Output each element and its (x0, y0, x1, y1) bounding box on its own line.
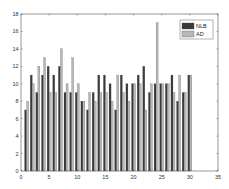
legend-swatch-ad (182, 31, 194, 37)
bar-nlb-13 (92, 93, 94, 172)
y-tick-label: 6 (15, 116, 18, 122)
bar-nlb-14 (98, 75, 100, 171)
bar-nlb-12 (87, 110, 89, 171)
bar-ad-24 (156, 23, 158, 171)
bar-nlb-30 (188, 75, 190, 171)
bar-nlb-23 (148, 93, 150, 172)
bar-nlb-19 (126, 84, 128, 171)
bar-nlb-10 (75, 93, 77, 172)
bar-nlb-25 (160, 84, 162, 171)
bar-ad-16 (111, 101, 113, 171)
y-tick-label: 4 (15, 133, 18, 139)
bar-ad-26 (167, 84, 169, 171)
legend-label-nlb: NLB (196, 23, 207, 29)
bar-nlb-15 (103, 75, 105, 171)
bar-ad-2 (32, 84, 34, 171)
bar-ad-22 (145, 110, 147, 171)
bar-nlb-18 (120, 75, 122, 171)
bar-ad-18 (122, 93, 124, 172)
y-tick-label: 10 (12, 81, 18, 87)
x-tick-label: 10 (74, 174, 80, 180)
bar-ad-6 (55, 93, 57, 172)
bar-nlb-22 (143, 66, 145, 171)
y-tick-label: 18 (12, 11, 18, 17)
legend-swatch-nlb (182, 23, 194, 29)
legend: NLBAD (180, 20, 213, 39)
bar-ad-21 (139, 84, 141, 171)
bar-nlb-20 (132, 84, 134, 171)
bar-nlb-26 (165, 84, 167, 171)
bar-ad-8 (66, 84, 68, 171)
x-tick-label: 35 (215, 174, 221, 180)
bar-ad-7 (60, 49, 62, 171)
bar-ad-28 (179, 75, 181, 171)
bar-nlb-6 (53, 75, 55, 171)
bar-ad-23 (150, 84, 152, 171)
y-tick-label: 12 (12, 63, 18, 69)
bar-nlb-1 (25, 110, 27, 171)
x-tick-label: 15 (102, 174, 108, 180)
bar-ad-27 (173, 93, 175, 172)
y-tick-label: 8 (15, 98, 18, 104)
bar-ad-14 (100, 93, 102, 172)
y-tick-label: 0 (15, 168, 18, 174)
bar-ad-5 (49, 93, 51, 172)
bar-ad-13 (94, 101, 96, 171)
bar-nlb-9 (70, 93, 72, 172)
x-tick-label: 5 (48, 174, 51, 180)
bar-nlb-3 (36, 93, 38, 172)
bar-ad-11 (83, 101, 85, 171)
bar-ad-1 (27, 101, 29, 171)
bar-nlb-8 (64, 93, 66, 172)
bars-group (25, 23, 192, 171)
y-tick-label: 16 (12, 28, 18, 34)
bar-nlb-7 (58, 66, 60, 171)
x-tick-label: 25 (159, 174, 165, 180)
x-tick-label: 0 (19, 174, 22, 180)
bar-nlb-16 (109, 84, 111, 171)
bar-nlb-2 (30, 75, 32, 171)
bar-chart: 024681012141618 05101520253035 NLBAD (0, 0, 229, 189)
bar-ad-25 (162, 84, 164, 171)
y-tick-label: 14 (12, 46, 18, 52)
bar-ad-15 (105, 93, 107, 172)
bar-nlb-28 (177, 101, 179, 171)
bar-ad-12 (89, 93, 91, 172)
x-tick-label: 30 (187, 174, 193, 180)
bar-nlb-11 (81, 101, 83, 171)
bar-nlb-24 (154, 84, 156, 171)
bar-nlb-17 (115, 110, 117, 171)
bar-nlb-27 (171, 75, 173, 171)
bar-ad-30 (190, 75, 192, 171)
bar-ad-17 (117, 75, 119, 171)
bar-nlb-29 (182, 93, 184, 172)
bar-ad-19 (128, 101, 130, 171)
bar-ad-9 (72, 58, 74, 171)
bar-nlb-5 (47, 66, 49, 171)
bar-ad-10 (77, 84, 79, 171)
bar-ad-4 (44, 58, 46, 171)
bar-nlb-4 (41, 75, 43, 171)
legend-label-ad: AD (196, 31, 204, 37)
bar-ad-29 (184, 93, 186, 172)
bar-ad-20 (134, 84, 136, 171)
bar-ad-3 (38, 66, 40, 171)
x-tick-label: 20 (131, 174, 137, 180)
bar-nlb-21 (137, 75, 139, 171)
y-tick-label: 2 (15, 151, 18, 157)
